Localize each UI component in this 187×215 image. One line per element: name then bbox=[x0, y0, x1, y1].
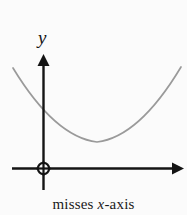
figure-caption: misses x-axis bbox=[0, 196, 187, 213]
y-axis-arrowhead-icon bbox=[38, 54, 50, 66]
x-axis-arrowhead-icon bbox=[172, 163, 184, 175]
caption-prefix-text: misses bbox=[52, 196, 97, 212]
y-axis-label: y bbox=[38, 28, 46, 47]
parabola-curve bbox=[13, 67, 181, 142]
caption-suffix-text: -axis bbox=[104, 196, 134, 212]
figure-container: y misses x-axis bbox=[0, 0, 187, 215]
coordinate-plot bbox=[0, 0, 187, 215]
